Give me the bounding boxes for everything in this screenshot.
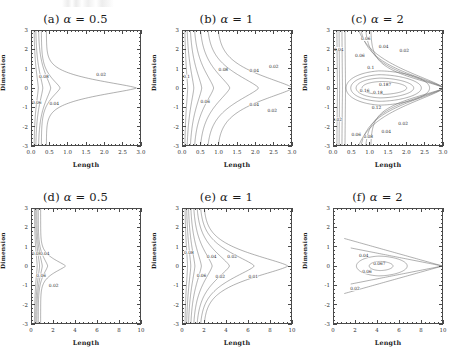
x-tick-top <box>226 208 227 212</box>
panel-c: (c) α = 20.040.020.060.060.040.020.10.16… <box>302 7 453 185</box>
x-tick-minor <box>281 30 282 32</box>
x-tick-minor <box>284 144 285 146</box>
y-tick-right <box>288 49 292 50</box>
y-tick-minor <box>31 103 33 104</box>
x-tick-minor <box>340 144 341 146</box>
y-tick-label: 2 <box>17 224 28 230</box>
x-tick-minor <box>39 322 40 324</box>
y-tick-minor <box>290 91 292 92</box>
y-tick-minor <box>139 61 141 62</box>
x-tick-top <box>255 30 256 34</box>
x-tick-top <box>377 208 378 212</box>
x-tick-minor <box>432 30 433 32</box>
y-tick-minor <box>139 72 141 73</box>
x-tick-minor <box>88 322 89 324</box>
contour-label: 0.01 <box>248 274 258 279</box>
x-tick-minor <box>366 144 367 146</box>
x-tick-minor <box>270 30 271 32</box>
x-tick-label: 0.5 <box>196 149 205 155</box>
y-tick <box>31 49 35 50</box>
x-tick-minor <box>340 30 341 32</box>
contour-label: 0.02 <box>399 48 409 53</box>
x-tick-minor <box>284 30 285 32</box>
y-tick-minor <box>290 231 292 232</box>
x-tick-minor <box>110 322 111 324</box>
y-tick-label: 2 <box>168 46 179 52</box>
y-tick-minor <box>31 72 33 73</box>
x-tick-minor <box>391 144 392 146</box>
contour-label: 0.04 <box>359 253 369 258</box>
x-tick-top <box>53 208 54 212</box>
contour-label: 0.04 <box>249 102 259 107</box>
y-tick <box>31 324 35 325</box>
x-tick-minor <box>44 208 45 210</box>
y-tick-minor <box>182 297 184 298</box>
y-tick-label: -1 <box>17 282 28 288</box>
y-tick <box>182 324 186 325</box>
y-tick-minor <box>31 235 33 236</box>
x-tick-minor <box>390 322 391 324</box>
x-tick-minor <box>230 322 231 324</box>
x-tick-label: 0 <box>29 327 33 333</box>
y-tick-label: 3 <box>319 205 330 211</box>
y-tick-minor <box>290 61 292 62</box>
y-tick-minor <box>139 111 141 112</box>
x-tick-minor <box>243 322 244 324</box>
x-tick-minor <box>248 30 249 32</box>
y-tick-minor <box>333 76 335 77</box>
y-tick-minor <box>31 80 33 81</box>
y-tick-minor <box>441 37 443 38</box>
y-tick-label: -2 <box>168 302 179 308</box>
y-tick-minor <box>31 76 33 77</box>
y-tick-minor <box>139 122 141 123</box>
x-tick-minor <box>281 144 282 146</box>
y-tick-minor <box>441 269 443 270</box>
x-tick-minor <box>432 144 433 146</box>
x-tick-minor <box>251 30 252 32</box>
y-tick-right <box>137 126 141 127</box>
contour-label: 0.16 <box>360 88 370 93</box>
y-tick-right <box>288 304 292 305</box>
panel-d: (d) α = 0.50.080.040.060.0202468103210-1… <box>0 185 151 363</box>
y-tick-minor <box>182 231 184 232</box>
x-tick-minor <box>248 144 249 146</box>
y-tick-right <box>288 324 292 325</box>
x-tick-label: 1.0 <box>214 149 223 155</box>
contour-label: 0.12 <box>372 105 382 110</box>
x-tick-minor <box>133 144 134 146</box>
y-tick-minor <box>139 281 141 282</box>
x-tick-minor <box>341 322 342 324</box>
y-tick-minor <box>290 53 292 54</box>
y-tick-minor <box>290 320 292 321</box>
x-tick-minor <box>115 144 116 146</box>
x-tick-minor <box>66 322 67 324</box>
x-tick-label: 0.5 <box>347 149 356 155</box>
y-tick <box>333 88 337 89</box>
y-tick-minor <box>182 37 184 38</box>
y-tick-minor <box>333 45 335 46</box>
x-tick-minor <box>127 322 128 324</box>
panel-title-b: (b) α = 1 <box>151 12 302 26</box>
y-tick-minor <box>31 134 33 135</box>
y-tick <box>333 227 337 228</box>
x-tick <box>97 320 98 324</box>
x-tick-top <box>86 30 87 34</box>
x-tick-label: 1.0 <box>63 149 72 155</box>
x-tick-minor <box>38 30 39 32</box>
x-tick <box>273 142 274 146</box>
x-tick-minor <box>372 208 373 210</box>
contour-label: 0.04 <box>50 101 60 106</box>
x-tick-minor <box>226 30 227 32</box>
y-tick-label: -3 <box>168 143 179 149</box>
x-tick-minor <box>346 208 347 210</box>
x-tick-minor <box>413 30 414 32</box>
y-tick-minor <box>290 99 292 100</box>
y-tick-minor <box>139 115 141 116</box>
y-tick-minor <box>290 142 292 143</box>
y-tick-minor <box>290 223 292 224</box>
x-tick-minor <box>394 322 395 324</box>
contour-label: 0.06 <box>352 132 362 137</box>
y-tick-minor <box>441 134 443 135</box>
y-tick-minor <box>31 223 33 224</box>
y-tick-minor <box>333 312 335 313</box>
